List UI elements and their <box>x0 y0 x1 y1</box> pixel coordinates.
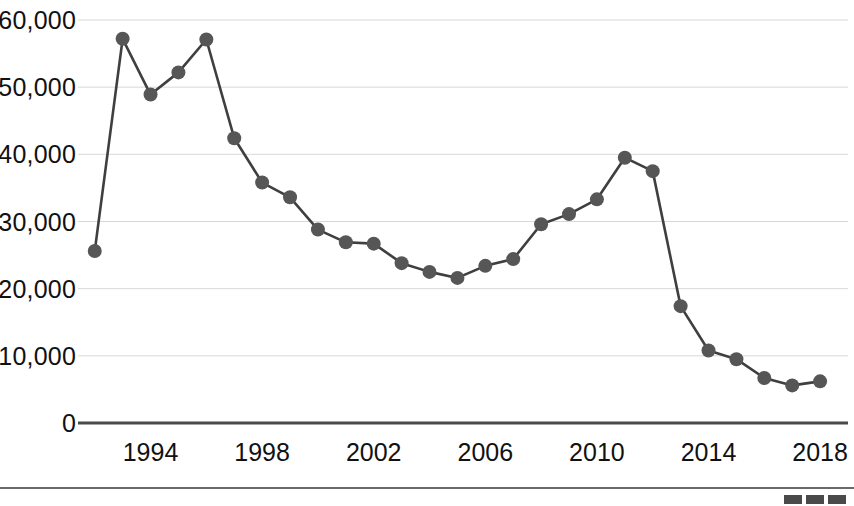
x-axis-tick-label: 2014 <box>681 438 737 467</box>
data-point: 2012: 37,500 <box>646 164 660 178</box>
data-point: 2009: 31,100 <box>562 207 576 221</box>
x-axis-tick-label: 2018 <box>792 438 848 467</box>
data-point: 2010: 33,300 <box>590 192 604 206</box>
data-point: 1994: 48,900 <box>144 88 158 102</box>
data-point: 2018: 6,200 <box>813 374 827 388</box>
data-point: 2013: 17,400 <box>674 299 688 313</box>
logo-icon <box>784 495 846 504</box>
data-point: 2000: 28,800 <box>311 223 325 237</box>
data-point: 2015: 9,500 <box>729 352 743 366</box>
data-point: 2001: 26,900 <box>339 235 353 249</box>
line-chart: 010,00020,00030,00040,00050,00060,000 19… <box>0 0 854 506</box>
data-markers: 1992: 25,6001993: 57,2001994: 48,9001995… <box>88 32 827 393</box>
gridlines <box>78 20 848 356</box>
logo-block-1 <box>784 495 802 504</box>
data-point: 2004: 22,500 <box>423 265 437 279</box>
logo-block-2 <box>806 495 824 504</box>
data-point: 1995: 52,200 <box>171 65 185 79</box>
data-point: 2002: 26,700 <box>367 237 381 251</box>
data-point: 2016: 6,700 <box>757 371 771 385</box>
data-point: 2007: 24,400 <box>506 252 520 266</box>
x-axis-tick-label: 2002 <box>346 438 402 467</box>
data-point: 2006: 23,400 <box>478 259 492 273</box>
x-axis-tick-label: 2010 <box>569 438 625 467</box>
data-point: 2017: 5,600 <box>785 378 799 392</box>
data-point: 2008: 29,600 <box>534 217 548 231</box>
data-point: 2014: 10,800 <box>702 343 716 357</box>
x-axis-tick-label: 1994 <box>123 438 179 467</box>
data-point: 2005: 21,600 <box>450 271 464 285</box>
data-point: 1992: 25,600 <box>88 244 102 258</box>
data-point: 1999: 33,600 <box>283 190 297 204</box>
data-point: 2003: 23,800 <box>395 256 409 270</box>
x-axis-labels: 1994199820022006201020142018 <box>0 438 854 478</box>
data-line <box>95 39 820 386</box>
data-point: 1993: 57,200 <box>116 32 130 46</box>
x-axis-tick-label: 1998 <box>234 438 290 467</box>
chart-plot-area: 1992: 25,6001993: 57,2001994: 48,9001995… <box>0 0 854 506</box>
footer-divider <box>0 487 854 489</box>
logo-block-3 <box>828 495 846 504</box>
data-point: 1997: 42,400 <box>227 131 241 145</box>
x-axis-tick-label: 2006 <box>458 438 514 467</box>
data-point: 1998: 35,800 <box>255 176 269 190</box>
data-point: 2011: 39,500 <box>618 151 632 165</box>
data-point: 1996: 57,100 <box>199 32 213 46</box>
